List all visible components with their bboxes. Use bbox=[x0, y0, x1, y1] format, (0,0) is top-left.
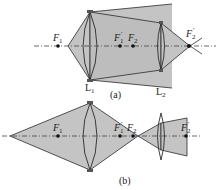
focal-point-f2-prime-a bbox=[187, 44, 191, 48]
caption-b: (b) bbox=[119, 175, 131, 187]
label-f2-prime-b: F2′ bbox=[180, 120, 191, 135]
label-f2-prime-a: F2′ bbox=[185, 26, 196, 41]
lens-l1-cap-top-a bbox=[87, 10, 93, 13]
lens-l2-cap-bottom-a bbox=[159, 69, 163, 72]
lens-l1-cap-bottom-b bbox=[87, 169, 93, 172]
label-f1-prime-b: F1′ bbox=[113, 120, 124, 135]
caption-a: (a) bbox=[110, 89, 121, 101]
diagram-b: F1 F1′ F2 F2′ (b) bbox=[2, 101, 200, 187]
label-l2-a: L2 bbox=[156, 86, 166, 99]
lens-diagram: F1 F1′ F2 F2′ L1 L2 (a) F1 F1′ F2 F2′ (b… bbox=[0, 0, 221, 190]
diagram-a: F1 F1′ F2 F2′ L1 L2 (a) bbox=[34, 4, 216, 101]
label-l1-a: L1 bbox=[85, 82, 95, 95]
lens-l2-cap-top-a bbox=[159, 21, 163, 24]
label-f1-a: F1 bbox=[52, 32, 63, 45]
lens-l1-cap-top-b bbox=[87, 101, 93, 104]
